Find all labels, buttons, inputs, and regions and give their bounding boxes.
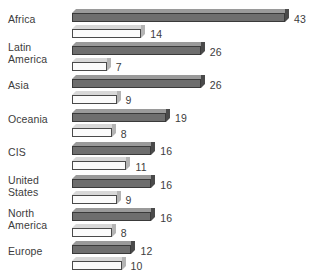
value-label: 16 xyxy=(160,146,172,157)
bar-side-face xyxy=(166,109,170,122)
value-label: 8 xyxy=(121,129,127,140)
category-label: Europe xyxy=(8,246,70,258)
bar-front-face xyxy=(72,29,141,38)
value-label: 43 xyxy=(294,14,306,25)
bar-side-face xyxy=(141,25,145,38)
category-label: United States xyxy=(8,175,70,198)
value-label: 9 xyxy=(126,195,132,206)
value-label: 12 xyxy=(140,246,152,257)
bar-side-face xyxy=(151,175,155,188)
category-label: Latin America xyxy=(8,42,70,65)
category-label: North America xyxy=(8,208,70,231)
bar-side-face xyxy=(117,191,121,204)
category-label: Oceania xyxy=(8,114,70,126)
bar-side-face xyxy=(112,124,116,137)
value-label: 8 xyxy=(121,228,127,239)
value-label: 7 xyxy=(116,62,122,73)
bar-side-face xyxy=(117,91,121,104)
bar-side-face xyxy=(131,241,135,254)
bar-side-face xyxy=(126,157,130,170)
category-label: Asia xyxy=(8,80,70,92)
bar-front-face xyxy=(72,146,151,155)
bar-front-face xyxy=(72,261,122,270)
bar-front-face xyxy=(72,13,285,22)
category-label: Africa xyxy=(8,14,70,26)
bar-front-face xyxy=(72,161,126,170)
bar-side-face xyxy=(151,142,155,155)
value-label: 16 xyxy=(160,213,172,224)
bar-chart: Africa4314Latin America267Asia269Oceania… xyxy=(0,0,316,273)
bar-front-face xyxy=(72,228,112,237)
bar-front-face xyxy=(72,62,107,71)
value-label: 11 xyxy=(135,162,146,173)
bar-side-face xyxy=(201,42,205,55)
bar-front-face xyxy=(72,128,112,137)
bar-front-face xyxy=(72,79,201,88)
bar-front-face xyxy=(72,245,131,254)
bar-side-face xyxy=(285,9,289,22)
bar-front-face xyxy=(72,46,201,55)
value-label: 9 xyxy=(126,95,132,106)
bar-side-face xyxy=(151,208,155,221)
value-label: 19 xyxy=(175,113,187,124)
bar-front-face xyxy=(72,95,117,104)
bar-side-face xyxy=(201,75,205,88)
bar-front-face xyxy=(72,212,151,221)
value-label: 14 xyxy=(150,29,162,40)
category-label: CIS xyxy=(8,147,70,159)
bar-side-face xyxy=(107,58,111,71)
value-label: 16 xyxy=(160,180,172,191)
bar-front-face xyxy=(72,113,166,122)
bar-front-face xyxy=(72,195,117,204)
bar-side-face xyxy=(112,224,116,237)
bar-front-face xyxy=(72,179,151,188)
value-label: 26 xyxy=(210,47,222,58)
bar-side-face xyxy=(122,257,126,270)
value-label: 26 xyxy=(210,80,222,91)
value-label: 10 xyxy=(131,261,143,272)
